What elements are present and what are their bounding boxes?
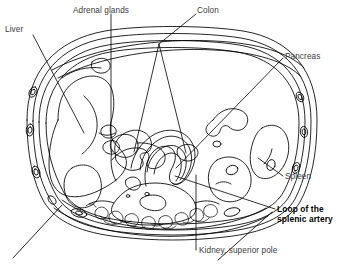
gas-bubble-2 [213, 141, 221, 147]
posterior-oval-right [223, 206, 240, 218]
leader-line-loop-splenic-artery [175, 176, 275, 209]
rib-oval-left-1 [27, 85, 39, 98]
bowel-loop-upper-left [91, 58, 110, 73]
abdominal-ct-diagram [0, 0, 341, 264]
label-loop-line-1: Loop of the [277, 204, 324, 214]
leader-line-colon-junction [159, 14, 196, 44]
label-loop-of-splenic-artery: Loop of thesplenic artery [277, 204, 333, 224]
gantry-marker-left [13, 205, 62, 258]
peritoneal-outline [46, 48, 299, 225]
transverse-process-left [89, 201, 114, 204]
leader-line-spleen [258, 158, 283, 176]
leader-line-colon-branch-2 [159, 44, 186, 153]
kidney-hilum-line [216, 182, 231, 184]
leader-line-colon-branch-1 [134, 44, 159, 152]
leader-line-pancreas [176, 58, 283, 168]
spinal-canal-outline [140, 195, 166, 211]
colon-splenic-flexure [206, 109, 248, 137]
transverse-process-right [195, 201, 219, 204]
label-liver: Liver [5, 25, 23, 35]
rib-oval-right-2-inner [302, 129, 306, 135]
vessel-dot-1 [145, 192, 149, 195]
vessel-dot-2 [126, 195, 130, 198]
label-adrenal-glands: Adrenal glands [73, 6, 129, 16]
gas-bubble-1 [225, 164, 239, 177]
rib-oval-right-2 [300, 126, 308, 138]
adrenal-gland-left [101, 125, 116, 138]
splenic-artery-loop-inner [147, 145, 186, 180]
label-loop-line-2: splenic artery [277, 214, 333, 224]
label-kidney-superior-pole: Kidney, superior pole [199, 246, 277, 256]
rib-oval-left-1-inner [30, 88, 36, 95]
label-pancreas: Pancreas [285, 52, 320, 62]
anterior-fascia-line-1 [52, 40, 304, 70]
aorta-outline [125, 177, 140, 190]
kidney-outline [208, 157, 251, 202]
label-colon: Colon [197, 6, 219, 16]
liver-fissure-line [82, 96, 97, 154]
rib-oval-left-3 [31, 165, 42, 179]
rib-oval-left-2-inner [28, 127, 33, 134]
label-spleen: Spleen [285, 172, 311, 182]
rib-oval-right-1-inner [297, 94, 303, 101]
